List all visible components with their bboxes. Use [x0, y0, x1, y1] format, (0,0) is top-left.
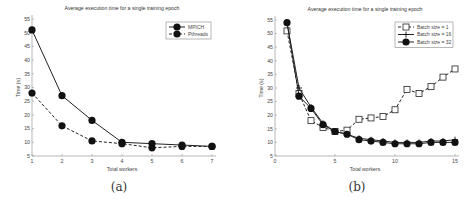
x-tick-label: 1 — [31, 158, 34, 164]
data-point — [451, 139, 458, 146]
legend-label: Batch size = 1 — [417, 24, 449, 30]
data-point — [343, 131, 350, 138]
data-point — [308, 118, 314, 124]
y-axis-label: Time (s) — [15, 78, 21, 97]
y-tick-label: 55 — [24, 16, 30, 22]
data-point — [178, 143, 185, 150]
y-tick-label: 25 — [267, 98, 273, 104]
line-chart-b: Average execution time for a single trai… — [238, 0, 476, 180]
data-point — [428, 84, 434, 90]
data-point — [403, 140, 410, 147]
legend-marker — [402, 38, 409, 45]
data-point — [427, 139, 434, 146]
y-tick-label: 45 — [24, 43, 30, 49]
y-tick-label: 40 — [267, 58, 273, 64]
data-point — [307, 105, 314, 112]
x-tick-label: 4 — [121, 158, 124, 164]
data-point — [28, 26, 35, 33]
y-tick-label: 25 — [24, 98, 30, 104]
legend-marker — [173, 30, 180, 37]
x-tick-label: 5 — [334, 158, 337, 164]
y-tick-label: 50 — [267, 30, 273, 36]
data-point — [58, 92, 65, 99]
y-tick-label: 35 — [267, 71, 273, 77]
data-point — [58, 122, 65, 129]
legend-marker — [403, 24, 409, 30]
chart-title: Average execution time for a single trai… — [65, 5, 180, 11]
y-tick-label: 20 — [267, 112, 273, 118]
x-tick-label: 15 — [452, 158, 458, 164]
x-tick-label: 7 — [211, 158, 214, 164]
x-tick-label: 10 — [392, 158, 398, 164]
data-point — [88, 117, 95, 124]
line-chart-a: Average execution time for a single trai… — [0, 0, 238, 180]
data-point — [440, 74, 446, 80]
y-tick-label: 10 — [267, 139, 273, 145]
x-tick-label: 2 — [61, 158, 64, 164]
y-tick-label: 55 — [267, 17, 273, 23]
data-point — [208, 143, 215, 150]
data-point — [367, 137, 374, 144]
y-tick-label: 15 — [24, 125, 30, 131]
x-tick-label: 5 — [151, 158, 154, 164]
data-point — [295, 93, 302, 100]
data-point — [452, 66, 458, 72]
legend-label: Batch size = 16 — [417, 31, 452, 37]
data-point — [148, 144, 155, 151]
chart-title: Average execution time for a single trai… — [308, 6, 423, 12]
y-tick-label: 20 — [24, 112, 30, 118]
y-tick-label: 30 — [24, 84, 30, 90]
data-point — [283, 19, 290, 26]
series-mpich — [28, 26, 215, 150]
data-point — [416, 90, 422, 96]
data-point — [391, 140, 398, 147]
x-axis-label: Total workers — [350, 166, 381, 172]
data-point — [439, 139, 446, 146]
y-axis-label: Time (s) — [258, 78, 264, 97]
data-point — [392, 107, 398, 113]
data-point — [355, 136, 362, 143]
chart-panel-a: Average execution time for a single trai… — [0, 0, 238, 205]
legend: MPICHPthreads — [166, 22, 211, 39]
y-tick-label: 45 — [267, 44, 273, 50]
chart-panel-b: Average execution time for a single trai… — [238, 0, 476, 205]
x-axis-label: Total workers — [107, 166, 138, 172]
data-point — [331, 128, 338, 135]
y-tick-label: 35 — [24, 71, 30, 77]
legend: Batch size = 1Batch size = 16Batch size … — [395, 22, 453, 48]
data-point — [356, 116, 362, 122]
data-point — [319, 121, 326, 128]
data-point — [88, 137, 95, 144]
data-point — [28, 89, 35, 96]
y-tick-label: 40 — [24, 57, 30, 63]
x-tick-label: 3 — [91, 158, 94, 164]
y-tick-label: 15 — [267, 126, 273, 132]
series-pthreads — [28, 89, 215, 151]
legend-marker — [173, 23, 180, 30]
data-point — [415, 140, 422, 147]
x-tick-label: 6 — [181, 158, 184, 164]
data-point — [118, 140, 125, 147]
legend-label: MPICH — [188, 24, 205, 30]
data-point — [368, 115, 374, 121]
caption-b: (b) — [238, 180, 476, 194]
y-tick-label: 30 — [267, 85, 273, 91]
data-point — [380, 114, 386, 120]
x-tick-label: 0 — [274, 158, 277, 164]
y-tick-label: 10 — [24, 139, 30, 145]
caption-a: (a) — [0, 180, 238, 194]
legend-label: Batch size = 32 — [417, 39, 452, 45]
data-point — [379, 139, 386, 146]
data-point — [404, 86, 410, 92]
legend-label: Pthreads — [188, 31, 209, 37]
